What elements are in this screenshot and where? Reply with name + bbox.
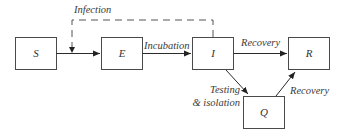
node-e: E	[102, 38, 143, 70]
node-s-label: S	[33, 47, 39, 59]
infection-arrowhead-icon	[69, 47, 75, 53]
node-r: R	[289, 38, 330, 70]
node-q: Q	[244, 97, 285, 129]
edge-label-recovery-q-r: Recovery	[289, 85, 329, 96]
edge-label-incubation: Incubation	[143, 40, 190, 51]
node-i: I	[193, 38, 234, 70]
edge-label-testing: Testing	[210, 84, 240, 95]
node-s: S	[16, 38, 57, 70]
node-q-label: Q	[260, 106, 268, 118]
node-r-label: R	[305, 47, 313, 59]
edge-label-isolation: & isolation	[192, 97, 240, 108]
edge-label-recovery-i-r: Recovery	[240, 37, 280, 48]
edge-label-infection: Infection	[73, 4, 111, 15]
node-e-label: E	[118, 47, 126, 59]
seiqr-diagram: S E I R Q Infection Incubation Recovery …	[0, 0, 342, 137]
